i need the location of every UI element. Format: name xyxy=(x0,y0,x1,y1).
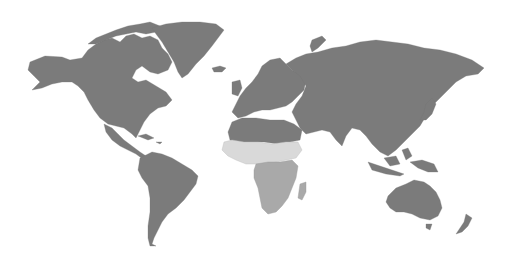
madagascar xyxy=(298,182,306,200)
british-isles xyxy=(232,80,242,96)
australia xyxy=(386,180,442,220)
south-america xyxy=(138,152,198,246)
novaya-zemlya xyxy=(310,36,326,52)
region-dark-group xyxy=(28,22,484,246)
new-zealand xyxy=(456,214,472,234)
region-mid-group xyxy=(254,160,306,214)
southeast-asia-islands xyxy=(368,148,438,176)
north-america xyxy=(28,34,172,138)
north-africa xyxy=(228,118,302,144)
caribbean xyxy=(138,134,162,144)
central-southern-africa xyxy=(254,160,298,214)
world-map xyxy=(0,0,515,260)
asia xyxy=(286,40,484,156)
iceland xyxy=(212,66,226,72)
tasmania xyxy=(426,224,432,230)
